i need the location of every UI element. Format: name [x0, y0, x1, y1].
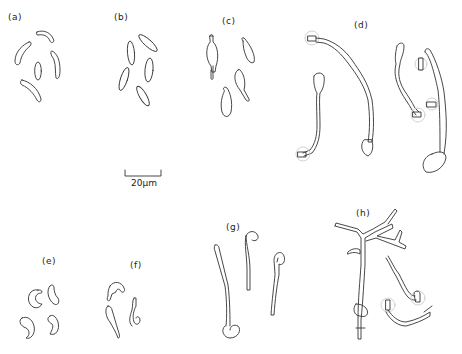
- panel-c-spores: [207, 35, 255, 117]
- spore-germination-figure: (a) (b) (c) (d) (e) (f) (g) (h) 20μm: [0, 0, 462, 354]
- panel-label-d: (d): [354, 20, 368, 30]
- panel-label-g: (g): [226, 222, 240, 232]
- panel-label-h: (h): [356, 208, 370, 218]
- panel-a-spores: [15, 31, 60, 102]
- caption-cutoff: [0, 346, 462, 354]
- panel-b-spores: [117, 32, 159, 107]
- panel-label-a: (a): [8, 12, 22, 22]
- drawing-canvas: [0, 0, 462, 354]
- panel-d-germlings: [296, 31, 446, 172]
- panel-h-mycelium: [335, 209, 432, 339]
- panel-label-e: (e): [42, 256, 56, 266]
- panel-label-c: (c): [222, 16, 235, 26]
- panel-label-b: (b): [114, 12, 128, 22]
- panel-label-f: (f): [130, 260, 142, 270]
- panel-f-spores: [106, 282, 140, 338]
- panel-g-germlings: [214, 232, 284, 339]
- scale-bar: [125, 170, 161, 176]
- scale-bar-label: 20μm: [131, 178, 157, 188]
- panel-e-spores: [20, 285, 59, 338]
